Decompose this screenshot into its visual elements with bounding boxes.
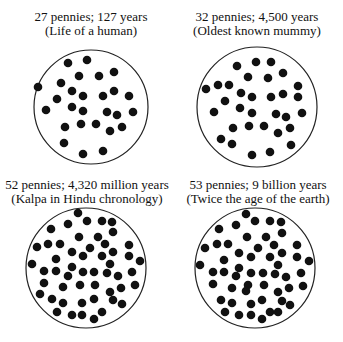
penny-dot [108,218,117,227]
penny-dot [61,123,70,132]
penny-dot [53,95,62,104]
penny-dot [251,217,260,226]
penny-dot [270,241,279,250]
penny-dot [267,93,276,102]
penny-dot [118,300,127,309]
penny-dot [110,68,119,77]
penny-dot [74,209,83,218]
penny-dot [264,74,273,83]
penny-dot [76,281,85,290]
penny-dot [217,135,226,144]
penny-dot [57,79,66,88]
penny-dot [279,69,288,78]
penny-dot [68,248,77,257]
penny-dot [213,240,222,249]
penny-dot [47,225,56,234]
penny-dot [271,270,280,279]
penny-dot [247,311,256,320]
penny-dot [294,82,303,91]
penny-dot [266,217,275,226]
penny-dot [242,210,251,219]
penny-dot [99,92,108,101]
penny-dot [125,241,134,250]
penny-dot [34,83,43,92]
penny-dot [266,148,275,157]
penny-dot [248,93,257,102]
penny-dot [79,92,88,101]
penny-dot [60,139,69,148]
penny-dot [228,140,237,149]
penny-dot [252,58,261,67]
penny-dot [90,315,99,324]
penny-dot [79,150,88,159]
penny-dot [28,260,37,269]
penny-dot [59,283,68,292]
penny-dot [99,147,108,156]
penny-dot [299,282,308,291]
penny-dot [282,113,291,122]
penny-dot [236,104,245,113]
penny-dot [106,260,115,269]
penny-dot [53,308,62,317]
penny-dot [106,288,115,297]
penny-dot [278,249,287,258]
penny-dot [75,72,84,81]
penny-dot [254,244,263,253]
penny-dot [40,279,49,288]
penny-dot [247,300,256,309]
penny-dot [109,228,118,237]
penny-dot [129,108,138,117]
penny-dot [267,58,276,67]
penny-dot [258,315,267,324]
penny-dot [217,296,226,305]
penny-dot [298,109,307,118]
penny-dot [266,308,275,317]
penny-dot [242,287,251,296]
penny-dot [40,267,49,276]
penny-dot [56,240,65,249]
penny-dot [262,233,271,242]
penny-dot [237,89,246,98]
penny-dot [258,296,267,305]
penny-dot [259,269,268,278]
penny-dot [293,253,302,262]
penny-dot [287,141,296,150]
penny-dot [94,233,103,242]
penny-dot [286,124,295,133]
penny-dot [136,257,145,266]
penny-dot [79,107,88,116]
penny-dot [260,122,269,131]
penny-dot [247,253,256,262]
penny-dot [248,109,257,118]
penny-dot [232,272,241,281]
penny-dot [279,90,288,99]
penny-dot [266,253,275,262]
penny-dot [117,284,126,293]
penny-dot [214,81,223,90]
penny-dot [228,299,237,308]
penny-dot [220,268,229,277]
penny-dot [274,288,283,297]
penny-dot [64,272,73,281]
penny-dot [196,261,205,270]
penny-dot [103,108,112,117]
penny-dot [286,301,295,310]
penny-dot [297,269,306,278]
penny-dot [235,311,244,320]
penny-dot [233,62,242,71]
penny-dot [106,127,115,136]
penny-dot [68,311,77,320]
penny-dot [48,295,57,304]
penny-dot [101,240,110,249]
penny-dot [64,59,73,68]
penny-dot [79,268,88,277]
penny-dot [202,85,211,94]
penny-dot [128,268,137,277]
penny-dot [83,56,92,65]
penny-diagram [0,0,343,342]
penny-dot [274,129,283,138]
penny-dot [52,255,61,264]
penny-dot [92,120,101,129]
penny-dot [98,308,107,317]
penny-dot [210,108,219,117]
